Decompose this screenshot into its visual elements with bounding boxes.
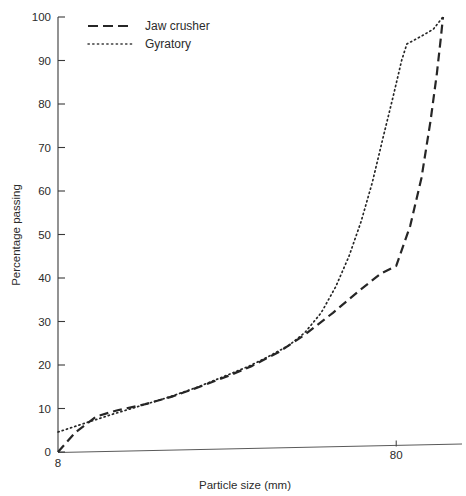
x-tick-label: 8 [55, 457, 61, 469]
y-tick-label: 60 [38, 185, 51, 197]
y-tick-label: 30 [38, 316, 51, 328]
y-tick-label: 40 [38, 272, 51, 284]
y-tick-label: 20 [38, 359, 51, 371]
y-tick-label: 50 [38, 229, 51, 241]
y-axis-title: Percentage passing [10, 184, 22, 286]
y-tick-label: 80 [38, 98, 51, 110]
x-tick-label: 80 [390, 449, 403, 461]
y-tick-label: 100 [32, 11, 51, 23]
y-tick-label: 90 [38, 55, 51, 67]
y-tick-label: 10 [38, 403, 51, 415]
y-tick-label: 0 [45, 446, 51, 458]
chart-figure: 0102030405060708090100 880 Percentage pa… [0, 0, 466, 496]
percentage-passing-chart: 0102030405060708090100 880 Percentage pa… [0, 0, 466, 496]
y-tick-label: 70 [38, 142, 51, 154]
legend-label-jaw-crusher: Jaw crusher [145, 19, 210, 33]
x-axis-title: Particle size (mm) [199, 479, 291, 491]
legend-label-gyratory: Gyratory [145, 37, 191, 51]
chart-background [0, 0, 466, 496]
